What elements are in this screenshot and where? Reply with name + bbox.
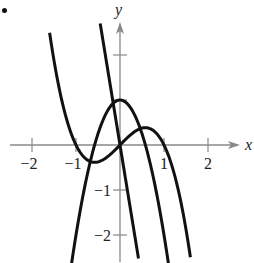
y-axis-label: y — [113, 1, 123, 19]
curve-series-3 — [100, 24, 138, 259]
plot-area: −2−112−2−1 x y — [0, 0, 254, 263]
x-tick-label: 1 — [160, 155, 168, 172]
y-tick-label: −1 — [94, 182, 111, 199]
x-tick-label: −2 — [20, 155, 37, 172]
x-tick-label: 2 — [204, 155, 212, 172]
x-axis-label: x — [244, 136, 252, 153]
bullet-marker — [2, 8, 7, 13]
x-tick-label: −1 — [64, 155, 81, 172]
chart-figure: −2−112−2−1 x y — [0, 0, 254, 263]
y-tick-label: −2 — [94, 227, 111, 244]
